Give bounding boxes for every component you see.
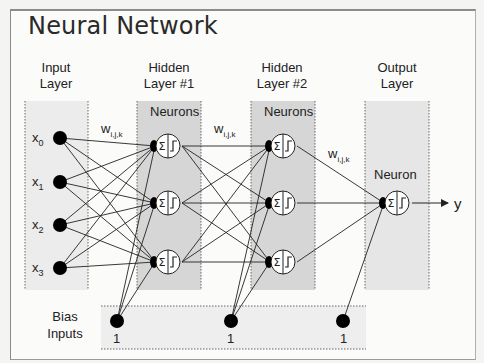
hidden2-box-label: Neurons — [264, 104, 313, 119]
output-y-label: y — [454, 195, 462, 212]
bias-inputs-label: Bias Inputs — [40, 308, 90, 342]
output-box-label: Neuron — [374, 167, 417, 182]
sum-icon: Σ — [159, 256, 166, 269]
bias-node-1 — [110, 314, 124, 328]
sum-icon: Σ — [388, 197, 395, 210]
input-label-3: x3 — [32, 260, 44, 278]
bias-label-line2: Inputs — [40, 325, 90, 342]
sum-icon: Σ — [159, 197, 166, 210]
bias-node-2 — [224, 314, 238, 328]
bias-node-3 — [336, 314, 350, 328]
input-label-1: x1 — [32, 174, 44, 192]
sum-icon: Σ — [274, 197, 281, 210]
input-node-1 — [53, 175, 67, 189]
bias-value-2: 1 — [227, 331, 234, 346]
bias-label-line1: Bias — [40, 308, 90, 325]
weights-label-2: wi,j,k — [214, 121, 235, 139]
input-label-0: x0 — [32, 130, 44, 148]
input-node-0 — [53, 131, 67, 145]
input-label-2: x2 — [32, 217, 44, 235]
input-node-2 — [53, 218, 67, 232]
sum-icon: Σ — [159, 140, 166, 153]
sum-icon: Σ — [274, 256, 281, 269]
hidden1-box-label: Neurons — [150, 104, 199, 119]
sum-icon: Σ — [274, 140, 281, 153]
bias-value-3: 1 — [340, 331, 347, 346]
bias-value-1: 1 — [113, 331, 120, 346]
weights-label-1: wi,j,k — [101, 121, 122, 139]
weights-label-3: wi,j,k — [328, 146, 349, 164]
input-node-3 — [53, 261, 67, 275]
